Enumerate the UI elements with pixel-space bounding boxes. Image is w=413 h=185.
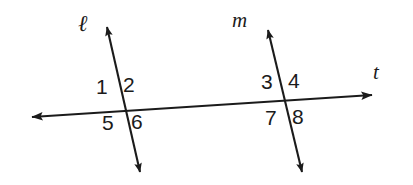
angle-label-1: 1 (96, 76, 108, 97)
line-label-m: m (232, 10, 247, 31)
geometry-figure: ℓ m t 1 2 5 6 3 4 7 8 (0, 0, 413, 185)
angle-label-8: 8 (292, 106, 304, 127)
angle-label-2: 2 (123, 74, 135, 95)
line-label-l: ℓ (78, 12, 88, 35)
angle-label-7: 7 (265, 107, 277, 128)
line-t-transversal (32, 95, 372, 117)
geometry-canvas (0, 0, 413, 185)
angle-label-6: 6 (131, 111, 143, 132)
angle-label-5: 5 (102, 112, 114, 133)
line-l-parallel (107, 27, 140, 172)
line-label-t: t (373, 62, 379, 83)
angle-label-3: 3 (261, 71, 273, 92)
angle-label-4: 4 (288, 70, 300, 91)
